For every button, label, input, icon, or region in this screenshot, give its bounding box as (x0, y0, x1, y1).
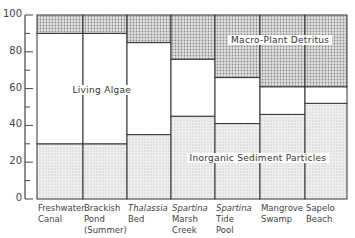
y-tick-label: 100 (0, 8, 22, 19)
y-tick-label: 80 (0, 45, 22, 56)
x-category-label: BrackishPond(Summer) (84, 203, 127, 236)
x-category-label: FreshwaterCanal (38, 203, 85, 225)
bar-segment-inorganic-sediment-particles (37, 144, 83, 199)
bar-segment-macro-plant-detritus (215, 15, 260, 78)
stacked-bar-chart: 020406080100FreshwaterCanalBrackishPond(… (0, 0, 355, 238)
bar-segment-macro-plant-detritus (37, 15, 83, 33)
x-category-label: ThalassiaBed (128, 203, 168, 225)
bar-segment-living-algae (215, 78, 260, 124)
x-category-label: MangroveSwamp (261, 203, 303, 225)
bar-segment-inorganic-sediment-particles (83, 144, 127, 199)
y-tick-label: 40 (0, 118, 22, 129)
x-category-label: SapeloBeach (306, 203, 335, 225)
y-tick-label: 60 (0, 82, 22, 93)
bar-segment-macro-plant-detritus (83, 15, 127, 33)
bar-segment-macro-plant-detritus (260, 15, 305, 87)
y-tick-label: 20 (0, 155, 22, 166)
bar-segment-living-algae (305, 87, 347, 104)
series-label: Living Algae (70, 85, 135, 95)
y-axis (25, 15, 33, 199)
bar-segment-macro-plant-detritus (171, 15, 215, 59)
bar-segment-macro-plant-detritus (305, 15, 347, 87)
x-category-label: SpartinaTidePool (216, 203, 252, 236)
bar-segment-living-algae (260, 87, 305, 115)
x-category-label: SpartinaMarshCreek (172, 203, 208, 236)
bar-segment-living-algae (171, 59, 215, 116)
bar-segment-inorganic-sediment-particles (127, 135, 171, 199)
bar-segment-inorganic-sediment-particles (305, 103, 347, 199)
series-label: Inorganic Sediment Particles (187, 153, 330, 163)
series-label: Macro-Plant Detritus (228, 35, 332, 45)
bar-segment-macro-plant-detritus (127, 15, 171, 43)
y-tick-label: 0 (0, 192, 22, 203)
